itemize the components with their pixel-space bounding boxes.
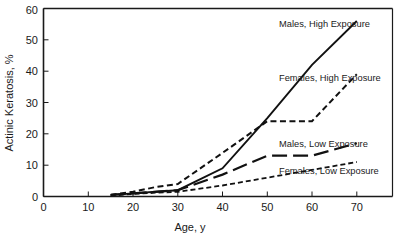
y-tick-label: 60 <box>26 4 38 16</box>
y-axis-title: Actinic Keratosis, % <box>3 54 15 151</box>
y-tick-label: 20 <box>26 128 38 140</box>
x-tick-label: 60 <box>306 201 318 213</box>
x-tick-label: 20 <box>127 201 139 213</box>
series-line-females-high <box>111 74 357 195</box>
y-tick-label: 40 <box>26 65 38 77</box>
x-tick-label: 10 <box>82 201 94 213</box>
series-label-females-low-exposure: Females, Low Exposure <box>279 166 379 176</box>
x-tick-label: 40 <box>216 201 228 213</box>
chart-figure: 0 10 20 30 40 50 60 0 10 20 30 40 50 <box>0 0 404 241</box>
y-tick-label: 0 <box>32 191 38 203</box>
x-tick-label: 30 <box>172 201 184 213</box>
y-tick-label: 30 <box>26 97 38 109</box>
y-tick-labels: 0 10 20 30 40 50 60 <box>26 4 38 203</box>
x-axis-title: Age, y <box>174 221 206 233</box>
y-tick-label: 50 <box>26 34 38 46</box>
x-tick-label: 0 <box>40 201 46 213</box>
x-tick-labels: 0 10 20 30 40 50 60 70 <box>40 201 362 213</box>
series-label-males-high-exposure: Males, High Exposure <box>279 19 370 29</box>
chart-canvas: 0 10 20 30 40 50 60 0 10 20 30 40 50 <box>0 0 404 241</box>
x-tick-label: 50 <box>261 201 273 213</box>
series-label-females-high-exposure: Females, High Exposure <box>279 73 381 83</box>
series-label-males-low-exposure: Males, Low Exposure <box>279 139 368 149</box>
x-tick-label: 70 <box>351 201 363 213</box>
y-tick-label: 10 <box>26 159 38 171</box>
